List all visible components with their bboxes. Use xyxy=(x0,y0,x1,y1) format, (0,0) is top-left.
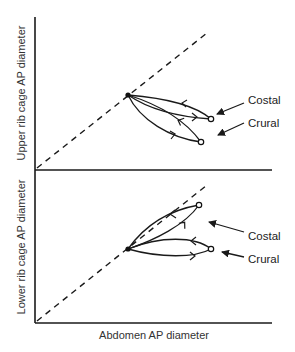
top-start-point xyxy=(125,92,130,97)
top-costal-label: Costal xyxy=(248,94,281,106)
bottom-panel: Costal Crural Lower rib cage AP diameter xyxy=(15,170,281,323)
x-axis-label: Abdomen AP diameter xyxy=(99,329,209,341)
bottom-crural-endpoint xyxy=(208,246,213,251)
top-panel: Costal Crural Upper rib cage AP diameter xyxy=(15,17,281,170)
bottom-crural-arrow-fwd-icon xyxy=(190,252,195,260)
top-costal-endpoint xyxy=(208,116,213,121)
bottom-costal-label: Costal xyxy=(248,230,281,242)
bottom-costal-endpoint xyxy=(196,202,201,207)
bottom-costal-pointer-icon xyxy=(209,222,244,232)
bottom-crural-pointer-icon xyxy=(222,252,244,257)
bottom-costal-expiration-curve xyxy=(128,205,199,249)
bottom-start-point xyxy=(125,246,130,251)
top-crural-label: Crural xyxy=(248,117,279,129)
diagram-canvas: Costal Crural Upper rib cage AP diameter… xyxy=(0,0,295,352)
top-crural-pointer-icon xyxy=(218,123,244,135)
bottom-identity-line xyxy=(37,185,207,321)
top-identity-line xyxy=(37,33,207,168)
top-crural-endpoint xyxy=(198,139,203,144)
bottom-costal-inspiration-curve xyxy=(128,205,199,249)
bottom-y-axis-label: Lower rib cage AP diameter xyxy=(15,179,27,314)
top-y-axis-label: Upper rib cage AP diameter xyxy=(15,25,27,160)
bottom-crural-label: Crural xyxy=(248,253,279,265)
bottom-crural-expiration-curve xyxy=(128,239,211,249)
bottom-crural-inspiration-curve xyxy=(128,249,211,256)
top-costal-pointer-icon xyxy=(217,103,244,114)
